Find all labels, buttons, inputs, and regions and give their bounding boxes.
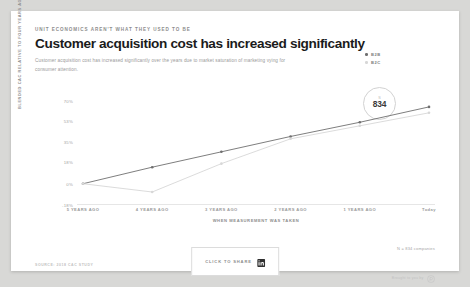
- legend-dot-icon: [365, 61, 368, 64]
- chart-legend: B2BB2C: [365, 51, 381, 66]
- eyebrow-text: UNIT ECONOMICS AREN'T WHAT THEY USED TO …: [35, 27, 191, 32]
- x-axis-tick-label: 3 YEARS AGO: [205, 207, 238, 212]
- data-point-b2b[interactable]: [359, 121, 362, 124]
- plot-area: [77, 101, 435, 205]
- line-chart: BLENDED CAC RELATIVE TO FOUR YEARS AGO 7…: [35, 101, 435, 223]
- chart-svg: [77, 101, 435, 205]
- x-axis-title: WHEN MEASUREMENT WAS TAKEN: [77, 218, 435, 223]
- data-point-b2b[interactable]: [428, 106, 431, 109]
- series-line-b2b: [83, 107, 429, 184]
- legend-label: B2B: [371, 52, 381, 57]
- subtitle-text: Customer acquisition cost has increased …: [35, 57, 303, 74]
- x-axis-tick-label: 5 YEARS AGO: [67, 207, 100, 212]
- sample-note: N = 834 companies: [397, 246, 435, 251]
- chart-card: UNIT ECONOMICS AREN'T WHAT THEY USED TO …: [11, 11, 459, 271]
- share-button[interactable]: CLICK TO SHARE: [191, 247, 279, 276]
- x-axis-tick-label: 1 YEARS AGO: [343, 207, 376, 212]
- x-axis-line: [77, 204, 435, 205]
- attribution: Brought to you by: [392, 269, 435, 287]
- attribution-label: Brought to you by: [392, 276, 424, 280]
- data-point-b2c[interactable]: [428, 112, 431, 115]
- x-axis-ticks: 5 YEARS AGO4 YEARS AGO3 YEARS AGO2 YEARS…: [77, 207, 435, 217]
- x-axis-tick-label: Today: [422, 207, 436, 212]
- data-point-b2c[interactable]: [359, 125, 362, 128]
- x-axis-tick-label: 2 YEARS AGO: [274, 207, 307, 212]
- data-point-b2b[interactable]: [289, 135, 292, 138]
- y-axis-ticks: 70%53%35%18%0%-18%: [47, 101, 73, 205]
- y-axis-title: BLENDED CAC RELATIVE TO FOUR YEARS AGO: [17, 5, 22, 109]
- source-text: SOURCE: 2018 CAC STUDY: [35, 263, 93, 267]
- linkedin-icon: [257, 253, 265, 271]
- data-point-b2b[interactable]: [151, 166, 154, 169]
- y-axis-tick-label: 70%: [64, 99, 73, 104]
- legend-dot-icon: [365, 53, 368, 56]
- brand-logo-icon: [427, 269, 435, 287]
- legend-label: B2C: [371, 60, 381, 65]
- y-axis-tick-label: 35%: [64, 140, 73, 145]
- y-axis-tick-label: 18%: [64, 160, 73, 165]
- data-point-b2b[interactable]: [220, 151, 223, 154]
- data-point-b2c[interactable]: [82, 182, 85, 185]
- data-point-b2c[interactable]: [220, 162, 223, 165]
- data-point-b2c[interactable]: [289, 138, 292, 141]
- share-button-label: CLICK TO SHARE: [205, 259, 252, 264]
- x-axis-tick-label: 4 YEARS AGO: [136, 207, 169, 212]
- y-axis-tick-label: 53%: [64, 119, 73, 124]
- legend-item-b2c[interactable]: B2C: [365, 59, 381, 67]
- series-line-b2c: [83, 113, 429, 192]
- page-title: Customer acquisition cost has increased …: [35, 36, 365, 51]
- legend-item-b2b[interactable]: B2B: [365, 51, 381, 59]
- data-point-b2c[interactable]: [151, 191, 154, 194]
- y-axis-tick-label: 0%: [66, 181, 73, 186]
